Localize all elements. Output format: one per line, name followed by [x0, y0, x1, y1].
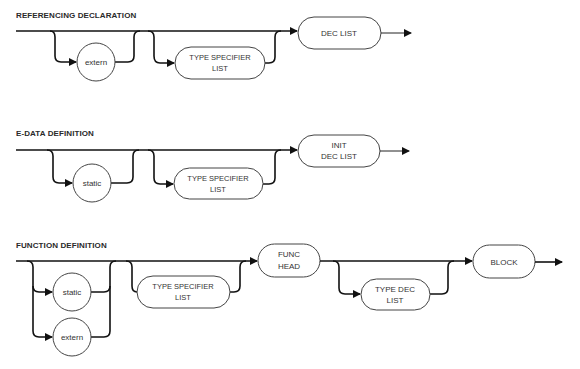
svg-text:DEC LIST: DEC LIST	[321, 152, 357, 161]
branch-track	[91, 261, 116, 292]
svg-text:static: static	[63, 288, 82, 297]
branch-track	[148, 31, 174, 63]
svg-text:extern: extern	[61, 333, 83, 342]
node-init-dec-list: INIT DEC LIST	[298, 135, 380, 167]
svg-text:LIST: LIST	[175, 293, 191, 302]
svg-text:BLOCK: BLOCK	[490, 258, 518, 267]
branch-track	[230, 261, 246, 292]
svg-text:LIST: LIST	[210, 185, 226, 194]
node-type-dec-list: TYPE DEC LIST	[361, 279, 430, 310]
node-static: static	[73, 164, 111, 202]
diagram-title: FUNCTION DEFINITION	[16, 241, 107, 250]
node-type-specifier-list: TYPE SPECIFIER LIST	[174, 168, 263, 199]
branch-track	[111, 150, 139, 183]
node-static: static	[53, 273, 91, 311]
node-type-specifier-list: TYPE SPECIFIER LIST	[175, 47, 265, 79]
branch-track	[263, 150, 281, 184]
svg-text:FUNC: FUNC	[278, 250, 300, 259]
branch-track	[33, 286, 52, 337]
node-block: BLOCK	[473, 245, 535, 278]
svg-text:TYPE DEC: TYPE DEC	[375, 285, 415, 294]
node-type-specifier-list: TYPE SPECIFIER LIST	[137, 276, 230, 308]
branch-track	[91, 286, 110, 337]
node-func-head: FUNC HEAD	[258, 244, 320, 277]
branch-track	[50, 31, 76, 62]
branch-track	[333, 261, 360, 294]
diagram-title: E-DATA DEFINITION	[16, 129, 94, 138]
branch-track	[27, 261, 52, 292]
branch-track	[115, 31, 140, 62]
svg-text:HEAD: HEAD	[278, 262, 300, 271]
svg-text:TYPE SPECIFIER: TYPE SPECIFIER	[152, 282, 214, 291]
branch-track	[430, 261, 454, 294]
svg-text:static: static	[83, 179, 102, 188]
branch-track	[148, 150, 173, 184]
diagram-title: REFERENCING DECLARATION	[16, 11, 136, 20]
syntax-diagrams: REFERENCING DECLARATION extern TYPE SPEC…	[0, 0, 580, 369]
branch-track	[126, 261, 137, 292]
branch-track	[265, 31, 281, 63]
svg-text:LIST: LIST	[212, 64, 228, 73]
svg-text:TYPE SPECIFIER: TYPE SPECIFIER	[189, 53, 251, 62]
diagram-referencing-declaration: REFERENCING DECLARATION extern TYPE SPEC…	[16, 11, 411, 81]
node-extern: extern	[53, 318, 91, 356]
svg-text:DEC LIST: DEC LIST	[321, 29, 357, 38]
diagram-function-definition: FUNCTION DEFINITION static extern TYPE S…	[16, 241, 562, 356]
svg-text:LIST: LIST	[387, 296, 404, 305]
node-dec-list: DEC LIST	[298, 17, 381, 49]
svg-text:TYPE SPECIFIER: TYPE SPECIFIER	[187, 174, 249, 183]
svg-text:INIT: INIT	[331, 141, 346, 150]
diagram-e-data-definition: E-DATA DEFINITION static TYPE SPECIFIER …	[16, 129, 409, 202]
node-extern: extern	[77, 43, 115, 81]
svg-text:extern: extern	[85, 58, 107, 67]
branch-track	[47, 150, 72, 183]
